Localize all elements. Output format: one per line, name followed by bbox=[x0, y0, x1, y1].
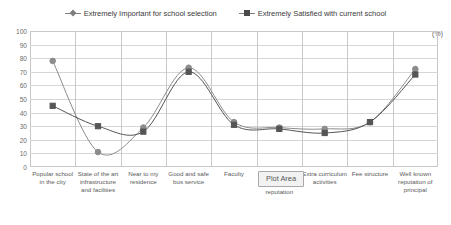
x-axis-tick-label: reputation bbox=[257, 188, 302, 196]
y-axis-tick-label: 100 bbox=[3, 28, 27, 35]
y-axis-tick-label: 40 bbox=[3, 109, 27, 116]
data-point-square[interactable] bbox=[186, 69, 191, 74]
data-point-square[interactable] bbox=[322, 130, 327, 135]
chart-container: Extremely Important for school selection… bbox=[0, 0, 451, 225]
x-axis-tick-label: Near to my residence bbox=[121, 170, 166, 186]
y-axis: 1009080706050403020100 bbox=[0, 31, 27, 167]
data-point-diamond[interactable] bbox=[413, 66, 419, 72]
legend-item-important[interactable]: Extremely Important for school selection bbox=[65, 9, 217, 18]
x-axis-tick-label: Good and safe bus service bbox=[166, 170, 211, 186]
x-axis-tick-label: Fee structure bbox=[347, 170, 392, 178]
legend-label-satisfied: Extremely Satisfied with current school bbox=[258, 9, 386, 18]
x-axis-tick-label: State of the art infrastructure and faci… bbox=[75, 170, 120, 195]
data-point-square[interactable] bbox=[367, 120, 372, 125]
data-point-diamond[interactable] bbox=[50, 58, 56, 64]
y-axis-tick-label: 80 bbox=[3, 55, 27, 62]
square-marker-icon bbox=[239, 9, 255, 18]
y-axis-tick-label: 0 bbox=[3, 164, 27, 171]
legend-label-important: Extremely Important for school selection bbox=[84, 9, 217, 18]
y-axis-tick-label: 10 bbox=[3, 150, 27, 157]
x-axis: Popular school in the cityState of the a… bbox=[30, 170, 438, 225]
y-axis-tick-label: 50 bbox=[3, 96, 27, 103]
plot-area-tooltip: Plot Area bbox=[258, 171, 304, 187]
x-axis-tick-label: Extra curriculum activities bbox=[302, 170, 347, 186]
y-axis-tick-label: 30 bbox=[3, 123, 27, 130]
chart-legend: Extremely Important for school selection… bbox=[0, 3, 451, 23]
data-point-square[interactable] bbox=[50, 103, 55, 108]
y-axis-tick-label: 60 bbox=[3, 82, 27, 89]
y-axis-tick-label: 70 bbox=[3, 68, 27, 75]
data-point-square[interactable] bbox=[231, 122, 236, 127]
legend-item-satisfied[interactable]: Extremely Satisfied with current school bbox=[239, 9, 386, 18]
y-axis-tick-label: 20 bbox=[3, 136, 27, 143]
data-point-square[interactable] bbox=[277, 126, 282, 131]
data-point-diamond[interactable] bbox=[95, 149, 101, 155]
data-point-square[interactable] bbox=[141, 129, 146, 134]
x-axis-tick-label: Popular school in the city bbox=[30, 170, 75, 186]
y-axis-tick-label: 90 bbox=[3, 41, 27, 48]
diamond-marker-icon bbox=[65, 9, 81, 18]
series-layer bbox=[30, 31, 438, 167]
x-axis-tick-label: Faculty bbox=[211, 170, 256, 178]
data-point-square[interactable] bbox=[413, 72, 418, 77]
x-axis-tick-label: Well known reputation of principal bbox=[393, 170, 438, 195]
plot-area[interactable] bbox=[30, 31, 438, 167]
data-point-square[interactable] bbox=[95, 124, 100, 129]
series-line bbox=[53, 61, 416, 155]
